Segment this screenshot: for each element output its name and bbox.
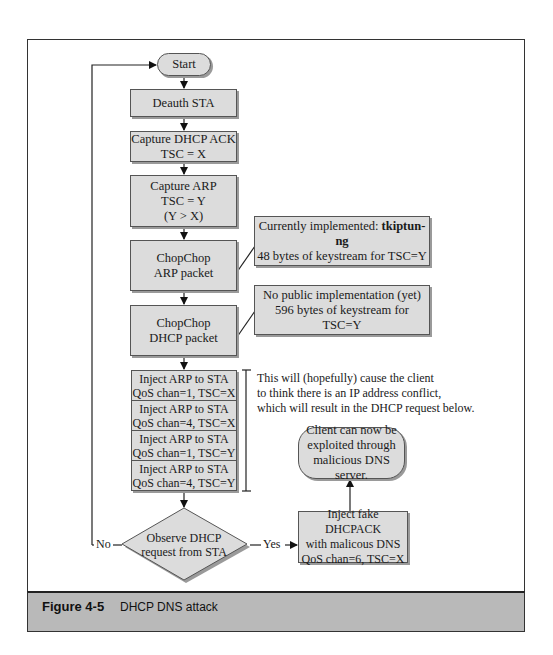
client-line1: Client can now be [306, 423, 397, 438]
capture-ack-line1: Capture DHCP ACK [131, 132, 235, 147]
deauth-label: Deauth STA [153, 96, 215, 111]
client-line3: malicious DNS server. [299, 453, 404, 483]
figure-caption: DHCP DNS attack [120, 600, 218, 614]
capture-dhcp-ack-node: Capture DHCP ACK TSC = X [130, 131, 237, 162]
inject-row-line1: Inject ARP to STA [139, 462, 229, 476]
inject-fake-line2: with malicous DNS [306, 537, 401, 552]
callout-tkiptun-line1: Currently implemented: tkiptun-ng [255, 219, 429, 249]
callout-dhcp-line2: 596 bytes of keystream for TSC=Y [255, 303, 429, 333]
client-exploited-node: Client can now be exploited through mali… [298, 427, 405, 479]
capture-arp-line1: Capture ARP [150, 179, 216, 194]
inject-fake-line3: QoS chan=6, TSC=X [302, 552, 405, 567]
inject-row-line1: Inject ARP to STA [139, 432, 229, 446]
callout-tkiptun-line2: 48 bytes of keystream for TSC=Y [257, 249, 427, 264]
decision-line2: request from STA [141, 545, 227, 559]
chopchop-arp-line2: ARP packet [154, 266, 214, 281]
inject-fake-line1: Inject fake DHCPACK [299, 507, 407, 537]
note-line2: to think there is an IP address conflict… [257, 386, 474, 401]
capture-ack-line2: TSC = X [161, 147, 206, 162]
chopchop-dhcp-line1: ChopChop [156, 316, 210, 331]
no-branch-label: No [94, 537, 113, 552]
inject-arp-row: Inject ARP to STA QoS chan=1, TSC=X [132, 371, 236, 401]
chopchop-dhcp-node: ChopChop DHCP packet [130, 305, 237, 356]
callout-tkiptun: Currently implemented: tkiptun-ng 48 byt… [254, 216, 430, 266]
ip-conflict-note: This will (hopefully) cause the client t… [257, 371, 474, 416]
chopchop-arp-node: ChopChop ARP packet [130, 240, 237, 291]
callout-dhcp-line1: No public implementation (yet) [263, 288, 421, 303]
note-line1: This will (hopefully) cause the client [257, 371, 474, 386]
capture-arp-line3: (Y > X) [164, 209, 203, 224]
inject-arp-row: Inject ARP to STA QoS chan=4, TSC=Y [132, 461, 236, 491]
inject-row-line1: Inject ARP to STA [139, 402, 229, 416]
chopchop-arp-line1: ChopChop [156, 251, 210, 266]
inject-row-line2: QoS chan=4, TSC=Y [133, 476, 236, 490]
start-label: Start [172, 57, 196, 72]
inject-arp-stack: Inject ARP to STA QoS chan=1, TSC=X Inje… [131, 370, 237, 491]
decision-line1: Observe DHCP [147, 531, 222, 545]
yes-branch-label: Yes [261, 537, 282, 552]
callout-prefix: Currently implemented: [259, 219, 382, 233]
figure-caption-bar: Figure 4-5 DHCP DNS attack [27, 591, 525, 632]
inject-fake-dhcpack-node: Inject fake DHCPACK with malicous DNS Qo… [298, 511, 408, 563]
inject-arp-row: Inject ARP to STA QoS chan=1, TSC=Y [132, 431, 236, 461]
start-node: Start [157, 53, 211, 76]
figure-number: Figure 4-5 [42, 599, 104, 614]
inject-row-line2: QoS chan=4, TSC=X [133, 416, 236, 430]
deauth-node: Deauth STA [130, 89, 237, 117]
chopchop-dhcp-line2: DHCP packet [149, 331, 218, 346]
inject-row-line1: Inject ARP to STA [139, 372, 229, 386]
inject-arp-row: Inject ARP to STA QoS chan=4, TSC=X [132, 401, 236, 431]
capture-arp-node: Capture ARP TSC = Y (Y > X) [130, 175, 237, 227]
capture-arp-line2: TSC = Y [161, 194, 206, 209]
inject-row-line2: QoS chan=1, TSC=X [133, 386, 236, 400]
callout-no-implementation: No public implementation (yet) 596 bytes… [254, 285, 430, 335]
client-line2: exploited through [307, 438, 396, 453]
decision-label: Observe DHCP request from STA [136, 530, 232, 560]
inject-row-line2: QoS chan=1, TSC=Y [133, 446, 236, 460]
note-line3: which will result in the DHCP request be… [257, 401, 474, 416]
